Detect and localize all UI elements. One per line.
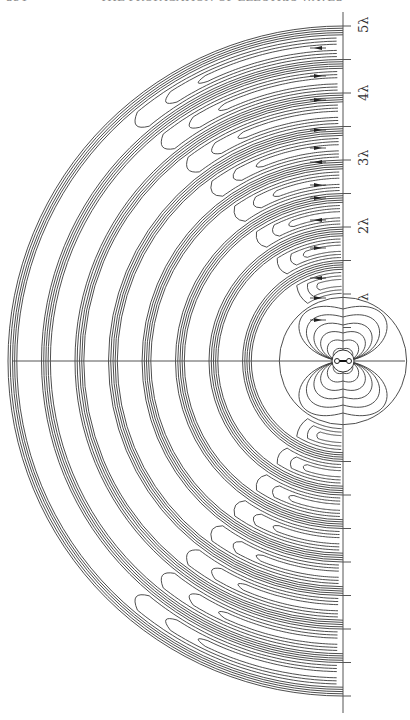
dipole-field-diagram (0, 0, 410, 720)
axis-label-1-lambda: λ (356, 293, 371, 301)
axis-label-3-lambda: 3λ (356, 149, 371, 166)
dipole-oscillator-icon (332, 350, 354, 372)
axis-label-2-lambda: 2λ (356, 217, 371, 234)
axis-label-4-lambda: 4λ (356, 84, 371, 101)
axis-label-5-lambda: 5λ (356, 16, 371, 33)
